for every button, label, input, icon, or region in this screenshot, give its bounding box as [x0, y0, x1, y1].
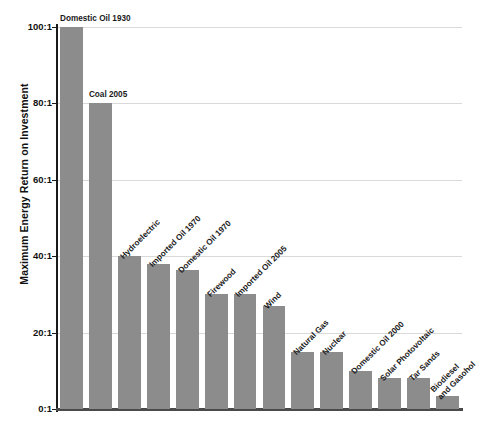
bar-chart: Maximum Energy Return on Investment 100:…	[0, 0, 497, 422]
bar	[407, 378, 430, 409]
bar	[291, 352, 314, 409]
bar-label: Imported Oil 2005	[234, 244, 289, 299]
bar	[60, 27, 83, 409]
bar-label-line: Imported Oil 2005	[234, 244, 289, 299]
bar	[205, 294, 228, 409]
y-axis-tick-label: 20:1	[33, 327, 52, 338]
bars-layer: Domestic Oil 1930Coal 2005HydroelectricI…	[57, 27, 462, 409]
bar	[378, 378, 401, 409]
bar-label: Coal 2005	[89, 90, 127, 99]
bar	[263, 306, 286, 409]
bar	[234, 294, 257, 409]
y-axis-tick-label: 40:1	[33, 250, 52, 261]
bar	[89, 103, 112, 409]
y-axis-tick-label: 60:1	[33, 174, 52, 185]
y-axis-tick-label: 80:1	[33, 97, 52, 108]
bar-label-line: Domestic Oil 1930	[60, 14, 131, 23]
bar	[147, 264, 170, 409]
bar	[349, 371, 372, 409]
bar	[320, 352, 343, 409]
y-axis-tick-label: 0:1	[38, 403, 52, 414]
bar	[118, 256, 141, 409]
y-axis-tick-labels: 100:180:160:140:120:10:1	[0, 27, 52, 409]
bar	[176, 270, 199, 409]
y-axis-tick-label: 100:1	[28, 21, 52, 32]
bar-label-line: Coal 2005	[89, 90, 127, 99]
bar-label: Domestic Oil 1930	[60, 14, 131, 23]
